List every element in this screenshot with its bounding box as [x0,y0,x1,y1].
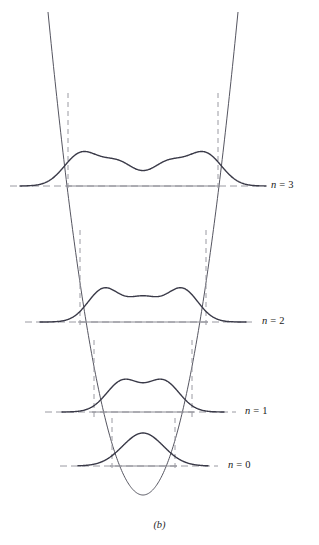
potential-parabola [48,12,238,495]
energy-level-n2 [25,230,252,328]
probability-density-curve-n0 [78,433,208,466]
potential-well-curve [48,12,238,495]
equals-sign-n2: = [267,315,279,326]
probability-density-curve-n3 [20,151,266,185]
harmonic-oscillator-figure: n = 3 n = 2 n = 1 n = 0 (b) [0,0,319,545]
level-label-n0: n = 0 [228,459,251,470]
equals-sign-n3: = [276,179,288,190]
quantum-number-value-n3: 3 [288,179,293,190]
level-label-n3: n = 3 [271,179,294,190]
harmonic-oscillator-plot [0,0,319,545]
energy-level-n1 [45,340,236,418]
quantum-number-value-n1: 1 [262,405,267,416]
probability-density-curve-n2 [40,288,246,322]
energy-levels-group [10,93,266,472]
quantum-number-value-n0: 0 [245,459,250,470]
equals-sign-n0: = [233,459,245,470]
equals-sign-n1: = [250,405,262,416]
energy-level-n0 [60,418,218,472]
probability-density-curve-n1 [62,379,224,412]
level-label-n2: n = 2 [262,315,285,326]
quantum-number-value-n2: 2 [279,315,284,326]
level-label-n1: n = 1 [245,405,268,416]
figure-caption: (b) [0,519,319,530]
